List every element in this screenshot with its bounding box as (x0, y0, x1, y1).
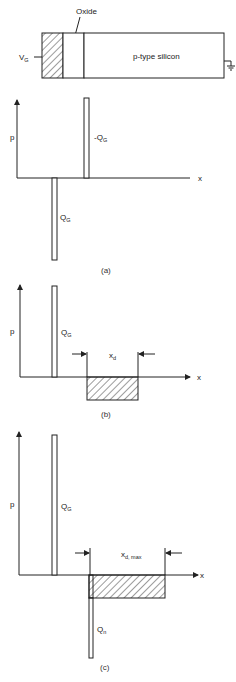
ground-icon (224, 61, 235, 70)
panel-a: p x -QG QG (a) (10, 98, 202, 275)
panel-c: p x QG xd, max Qn (c) (10, 432, 204, 672)
gate-charge-label: QG (60, 213, 71, 223)
gate-charge-bar (52, 178, 57, 260)
x-axis-label: x (197, 373, 201, 382)
mos-charge-diagram: Oxide VG p-type silicon p x -QG QG (a) p… (0, 0, 236, 682)
x-axis-label: x (200, 571, 204, 580)
caption-b: (b) (101, 410, 111, 419)
inversion-charge-bar (89, 598, 93, 658)
depletion-width-label: xd (109, 351, 116, 361)
y-axis-label: p (10, 327, 15, 336)
caption-a: (a) (101, 266, 111, 275)
negative-charge-label: -QG (94, 133, 107, 143)
caption-c: (c) (100, 663, 110, 672)
gate-charge-label: QG (61, 502, 72, 512)
gate-charge-bar (52, 286, 57, 377)
silicon-label: p-type silicon (133, 52, 180, 61)
panel-b: p x QG xd (b) (10, 285, 201, 419)
y-axis-label: p (10, 500, 15, 509)
gate-charge-label: QG (61, 328, 72, 338)
x-axis-label: x (198, 174, 202, 183)
gate-voltage-label: VG (19, 53, 29, 63)
y-axis-label: p (10, 133, 15, 142)
gate-metal (42, 33, 63, 78)
max-depletion-width-label: xd, max (121, 550, 142, 560)
oxide-label: Oxide (76, 7, 97, 16)
depletion-charge-region (87, 377, 138, 400)
inversion-charge-label: Qn (97, 625, 106, 635)
gate-charge-bar (52, 435, 57, 575)
oxide-layer (63, 33, 84, 78)
depletion-charge-region (89, 575, 165, 598)
mos-device: Oxide VG p-type silicon (19, 7, 235, 78)
negative-charge-bar (84, 98, 89, 178)
